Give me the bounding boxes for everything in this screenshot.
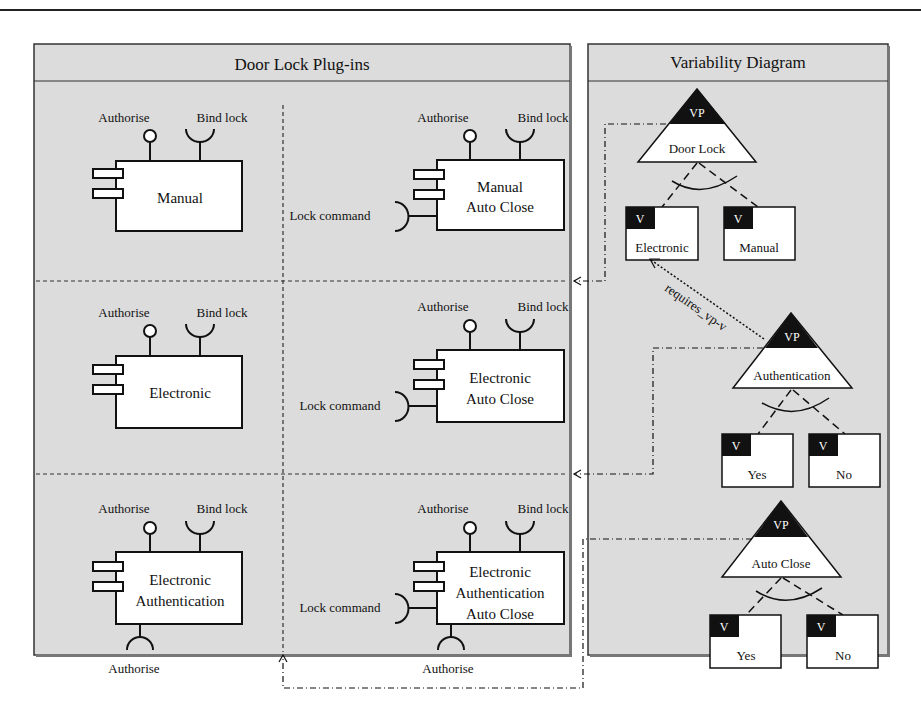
vp-badge: VP	[773, 518, 789, 532]
component-icon	[93, 365, 123, 374]
component-icon	[93, 562, 123, 571]
component-name: Electronic	[149, 572, 211, 588]
component-name: Manual	[157, 190, 203, 206]
provided-interface-icon	[144, 522, 156, 534]
required-interface-label: Bind lock	[197, 110, 248, 125]
provided-interface-icon	[144, 130, 156, 142]
panel-title: Door Lock Plug-ins	[234, 55, 369, 74]
provided-interface-label: Authorise	[98, 110, 150, 125]
variant-manual[interactable]: V Manual	[724, 207, 795, 260]
side-interface-label: Lock command	[299, 600, 381, 615]
component-icon	[93, 169, 123, 178]
required-interface-label: Bind lock	[518, 110, 569, 125]
variant-electronic[interactable]: V Electronic	[626, 207, 698, 260]
provided-interface-label: Authorise	[417, 110, 469, 125]
vp-badge: VP	[784, 330, 800, 344]
vp-name: Auto Close	[752, 556, 811, 571]
component-icon	[414, 170, 444, 179]
bottom-interface-label: Authorise	[108, 661, 160, 676]
required-interface-label: Bind lock	[197, 501, 248, 516]
required-interface-label: Bind lock	[518, 501, 569, 516]
variant-name: Manual	[739, 240, 779, 255]
provided-interface-label: Authorise	[98, 501, 150, 516]
component-name: Auto Close	[466, 199, 534, 215]
variant-badge: V	[817, 620, 826, 634]
provided-interface-label: Authorise	[98, 305, 150, 320]
variant-badge: V	[636, 212, 645, 226]
vp-name: Door Lock	[669, 141, 726, 156]
bottom-interface-label: Authorise	[422, 661, 474, 676]
component-name: Electronic	[469, 564, 531, 580]
component-icon	[414, 562, 444, 571]
variant-auto-close-no[interactable]: V No	[807, 615, 878, 668]
provided-interface-icon	[464, 130, 476, 142]
variant-authentication-yes[interactable]: V Yes	[722, 434, 793, 487]
variant-auto-close-yes[interactable]: V Yes	[710, 615, 781, 668]
component-name: Electronic	[149, 385, 211, 401]
vp-name: Authentication	[753, 368, 831, 383]
provided-interface-icon	[144, 325, 156, 337]
diagram-canvas: Door Lock Plug-ins Variability Diagram A…	[0, 0, 921, 714]
component-name: Electronic	[469, 370, 531, 386]
variant-name: Yes	[748, 467, 767, 482]
side-interface-label: Lock command	[289, 208, 371, 223]
required-interface-label: Bind lock	[197, 305, 248, 320]
panel-title: Variability Diagram	[670, 53, 806, 72]
provided-interface-label: Authorise	[417, 501, 469, 516]
variant-name: No	[835, 648, 851, 663]
required-interface-label: Bind lock	[518, 299, 569, 314]
component-name: Auto Close	[466, 391, 534, 407]
variant-badge: V	[734, 212, 743, 226]
component-name: Manual	[477, 179, 523, 195]
variant-badge: V	[732, 439, 741, 453]
component-name: Authentication	[455, 585, 545, 601]
provided-interface-icon	[464, 320, 476, 332]
provided-interface-icon	[464, 522, 476, 534]
vp-badge: VP	[689, 106, 705, 120]
variant-name: Yes	[737, 648, 756, 663]
component-name: Authentication	[135, 593, 225, 609]
variant-name: Electronic	[635, 240, 689, 255]
component-name: Auto Close	[466, 606, 534, 622]
variant-badge: V	[819, 439, 828, 453]
component-icon	[414, 360, 444, 369]
variant-badge: V	[720, 620, 729, 634]
variant-authentication-no[interactable]: V No	[809, 434, 880, 487]
side-interface-label: Lock command	[299, 398, 381, 413]
provided-interface-label: Authorise	[417, 299, 469, 314]
variant-name: No	[836, 467, 852, 482]
